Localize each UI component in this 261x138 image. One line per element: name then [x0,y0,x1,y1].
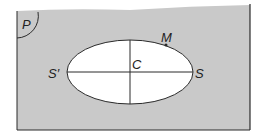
plane-label: P [22,17,31,32]
vertex-left-label: S′ [48,66,60,81]
point-m-label: M [161,30,172,45]
center-label: C [132,57,142,72]
ellipse-diagram: P M C S S′ [0,0,261,138]
vertex-right-label: S [195,66,204,81]
